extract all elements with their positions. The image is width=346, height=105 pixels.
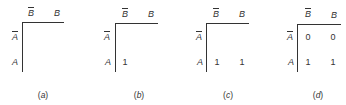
map-left-border (297, 24, 298, 72)
row-label-a-bar: A (287, 32, 293, 42)
cell-a-bbar: 1 (305, 57, 310, 67)
row-label-a: A (288, 57, 294, 67)
cell-abar-b: 0 (330, 32, 335, 42)
col-label-b: B (331, 10, 337, 20)
cell-abar-bbar: 0 (305, 32, 310, 42)
cell-a-b: 1 (330, 57, 335, 67)
caption-d: (d) (313, 90, 323, 100)
col-label-b-bar: B (305, 9, 311, 19)
map-top-border (297, 24, 341, 25)
karnaugh-map-d: B B A A 0 0 1 1 (d) (0, 0, 346, 105)
